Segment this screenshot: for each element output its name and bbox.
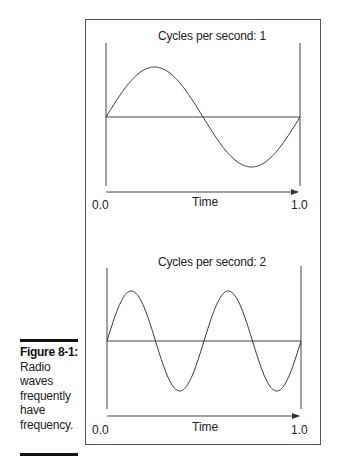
caption-bottom-rule xyxy=(20,453,78,456)
panel-2-x-label: Time xyxy=(192,420,218,434)
caption-line: have xyxy=(20,403,80,418)
panel-1-x-start: 0.0 xyxy=(92,198,109,212)
panel-1-x-end: 1.0 xyxy=(291,198,308,212)
figure-caption: Figure 8-1: Radio waves frequently have … xyxy=(20,345,80,432)
caption-line: Radio xyxy=(20,360,80,375)
caption-line: frequently xyxy=(20,389,80,404)
caption-line: waves xyxy=(20,374,80,389)
panel-1-x-label: Time xyxy=(192,195,218,209)
caption-top-rule xyxy=(20,339,78,342)
panel-2-x-end: 1.0 xyxy=(291,423,308,437)
panel-1-title: Cycles per second: 1 xyxy=(158,29,266,43)
panel-2-x-start: 0.0 xyxy=(92,423,109,437)
figure-label: Figure 8-1: xyxy=(20,345,80,360)
panel-2-title: Cycles per second: 2 xyxy=(158,255,266,269)
caption-line: frequency. xyxy=(20,418,80,433)
